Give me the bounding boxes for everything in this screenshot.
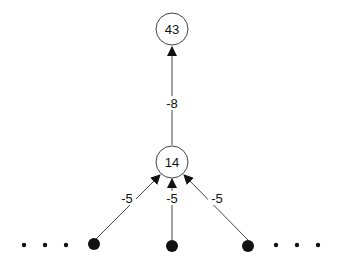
tree-diagram: -8 -5 -5 -5 43 14 xyxy=(0,0,339,264)
node-middle: 14 xyxy=(156,146,188,178)
edge-left-to-middle: -5 xyxy=(95,175,160,240)
leaf-node-right xyxy=(242,240,254,252)
node-label: 14 xyxy=(165,155,179,170)
leaf-node-left xyxy=(88,238,100,250)
edge-center-to-middle: -5 xyxy=(163,179,181,240)
ellipsis-right-icon xyxy=(274,243,320,247)
edge-label: -5 xyxy=(121,191,133,206)
node-label: 43 xyxy=(165,22,179,37)
ellipsis-left-icon xyxy=(22,243,68,247)
edge-right-to-middle: -5 xyxy=(184,175,248,240)
node-top: 43 xyxy=(156,13,188,45)
leaf-node-center xyxy=(166,240,178,252)
edge-label: -5 xyxy=(211,191,223,206)
edge-middle-to-top: -8 xyxy=(163,47,181,145)
edge-label: -5 xyxy=(166,191,178,206)
edge-label: -8 xyxy=(166,96,178,111)
